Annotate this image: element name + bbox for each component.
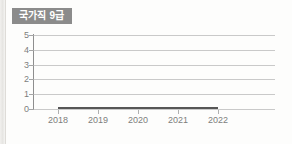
- y-axis-tick: [29, 94, 34, 95]
- y-tick-label: 4: [15, 46, 29, 55]
- y-tick-label: 3: [15, 61, 29, 70]
- gridline: [33, 94, 275, 95]
- x-tick-label: 2019: [78, 115, 118, 125]
- x-tick-label: 2022: [198, 115, 238, 125]
- x-tick-label: 2021: [158, 115, 198, 125]
- chart-screenshot: 국가직 9급 012345 20182019202020212022: [0, 0, 292, 144]
- plot-area: [33, 35, 275, 109]
- x-axis-tick: [58, 110, 59, 114]
- x-tick-label: 2018: [38, 115, 78, 125]
- x-axis-tick: [98, 110, 99, 114]
- y-axis-tick: [29, 50, 34, 51]
- y-axis-tick: [29, 79, 34, 80]
- chart-title-badge: 국가직 9급: [12, 8, 72, 24]
- y-tick-label: 0: [15, 105, 29, 114]
- series-line: [58, 107, 218, 109]
- gridline: [33, 79, 275, 80]
- gridline: [33, 109, 275, 110]
- y-axis-tick: [29, 65, 34, 66]
- page-edge-line: [5, 0, 6, 144]
- x-axis-tick: [218, 110, 219, 114]
- y-axis-tick: [29, 109, 34, 110]
- x-tick-label: 2020: [118, 115, 158, 125]
- x-axis-tick: [138, 110, 139, 114]
- gridline: [33, 35, 275, 36]
- y-axis-labels: 012345: [12, 35, 29, 109]
- y-tick-label: 5: [15, 31, 29, 40]
- gridline: [33, 65, 275, 66]
- y-tick-label: 1: [15, 90, 29, 99]
- x-axis-tick: [178, 110, 179, 114]
- y-tick-label: 2: [15, 75, 29, 84]
- y-axis-tick: [29, 35, 34, 36]
- gridline: [33, 50, 275, 51]
